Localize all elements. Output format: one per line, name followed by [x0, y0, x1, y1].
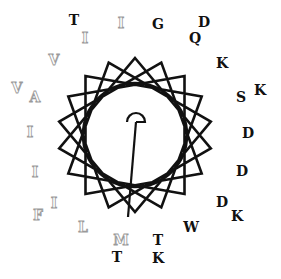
residue-label: T [112, 249, 123, 265]
residue-label: S [236, 89, 246, 105]
residue-label: I [82, 30, 89, 46]
residue-label: T [69, 12, 80, 28]
residue-label: W [182, 219, 199, 235]
residue-label: D [198, 14, 210, 30]
residue-label: V [48, 52, 61, 68]
residue-label: I [118, 15, 125, 31]
residue-label: M [113, 232, 129, 248]
residue-label: D [236, 163, 248, 179]
residue-label: I [51, 195, 58, 211]
residue-label: K [216, 55, 229, 71]
residue-label: K [254, 82, 267, 98]
residue-label: G [152, 16, 164, 32]
residue-label: F [33, 207, 43, 223]
residue-label: D [216, 194, 228, 210]
residue-label: K [231, 208, 244, 224]
residue-label: I [27, 124, 34, 140]
residue-label: L [78, 219, 88, 235]
residue-label: A [29, 89, 42, 105]
residue-label: K [152, 250, 165, 266]
residue-label: Q [189, 30, 201, 46]
helical-wheel-diagram: TIGDIQVKVASKIDIDIFDKLWMTTK [0, 0, 281, 279]
residue-label: I [32, 164, 39, 180]
residue-label: V [11, 80, 24, 96]
residue-label: D [242, 125, 254, 141]
background [0, 0, 281, 279]
residue-label: T [153, 232, 164, 248]
